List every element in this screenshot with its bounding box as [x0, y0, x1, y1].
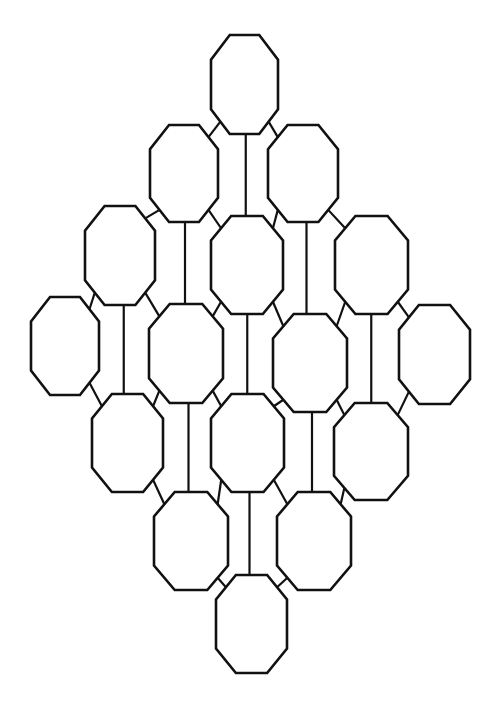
diagonal-link-n6-n10 [398, 302, 409, 318]
octagon-node-n7 [31, 297, 99, 395]
octagon-node-n11 [92, 394, 163, 492]
diagonal-link-n1-n2 [208, 122, 220, 138]
octagon-node-n14 [154, 492, 228, 590]
octagon-node-n6 [335, 216, 408, 314]
octagon-node-n10 [399, 305, 470, 404]
diagonal-link-n10-n13 [398, 392, 409, 416]
nodes-layer [31, 35, 470, 673]
diagonal-link-n5-n9 [273, 302, 283, 327]
diagonal-link-n4-n7 [89, 293, 94, 310]
diagonal-link-n12-n14 [218, 480, 222, 505]
diagonal-link-n5-n8 [213, 302, 221, 317]
diagonal-link-n12-n15 [274, 480, 288, 505]
octagon-node-n15 [277, 492, 351, 590]
diagonal-link-n14-n16 [218, 578, 226, 588]
octagon-node-n5 [211, 216, 283, 314]
diagonal-link-n2-n5 [208, 210, 221, 228]
octagon-lattice-diagram [0, 0, 494, 704]
octagon-node-n16 [216, 575, 287, 673]
diagonal-link-n8-n11 [153, 391, 159, 407]
diagonal-link-n15-n16 [277, 578, 287, 588]
diagonal-link-n3-n6 [328, 210, 345, 228]
diagonal-link-n7-n11 [89, 383, 101, 407]
octagon-node-n13 [334, 403, 408, 500]
diagonal-link-n2-n4 [145, 210, 159, 219]
diagonal-link-n8-n12 [213, 391, 222, 407]
octagon-node-n3 [268, 125, 338, 222]
diagonal-link-n6-n9 [337, 302, 346, 327]
diagonal-link-n3-n5 [273, 210, 278, 228]
diagonal-link-n11-n14 [153, 480, 164, 505]
octagon-node-n8 [149, 304, 223, 403]
links-layer [89, 122, 408, 588]
octagon-node-n9 [273, 314, 347, 412]
diagonal-link-n4-n8 [145, 293, 159, 317]
diagonal-link-n9-n13 [337, 400, 345, 415]
octagon-node-n2 [150, 125, 218, 222]
diagonal-link-n1-n3 [269, 122, 278, 138]
octagon-node-n12 [211, 394, 284, 492]
octagon-node-n4 [85, 206, 155, 305]
octagon-node-n1 [211, 35, 278, 134]
diagonal-link-n9-n12 [274, 400, 284, 407]
diagonal-link-n13-n15 [341, 488, 345, 504]
